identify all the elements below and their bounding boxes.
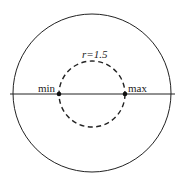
radius-label: r=1.5	[82, 48, 108, 60]
diagram-svg: r=1.5 min max	[0, 0, 183, 188]
max-point	[123, 92, 128, 97]
diagram-canvas: r=1.5 min max	[0, 0, 183, 188]
min-point	[57, 92, 62, 97]
min-label: min	[38, 82, 56, 94]
max-label: max	[128, 82, 147, 94]
outer-circle	[13, 14, 171, 172]
